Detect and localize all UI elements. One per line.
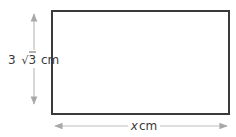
width-label: xcm (130, 119, 157, 133)
height-label: 3 √3 cm (8, 53, 59, 67)
rectangle (52, 11, 229, 114)
rectangle-diagram: 3 √3 cm xcm (0, 0, 236, 137)
